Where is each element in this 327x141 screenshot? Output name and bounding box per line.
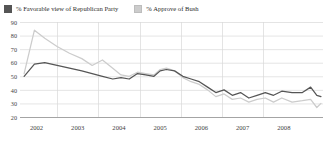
x-tick-label: 2006 — [195, 124, 209, 131]
y-tick-label: 80 — [11, 32, 17, 39]
x-tick-label: 2008 — [277, 124, 291, 131]
chart-figure: % Favorable view of Republican Party % A… — [0, 0, 327, 141]
x-tick-label: 2005 — [154, 124, 168, 131]
x-tick-label: 2004 — [112, 124, 126, 131]
x-tick-label: 2007 — [236, 124, 250, 131]
y-tick-label: 20 — [11, 114, 17, 121]
legend-swatch-republican — [4, 5, 12, 13]
chart-plot-area: 9080706050403020 20022003200420052006200… — [0, 18, 327, 141]
legend-label-republican: % Favorable view of Republican Party — [16, 5, 118, 13]
y-tick-label: 70 — [11, 46, 17, 53]
y-tick-label: 40 — [11, 87, 17, 94]
chart-x-tick-labels: 2002200320042005200620072008 — [30, 124, 291, 131]
chart-y-tick-labels: 9080706050403020 — [11, 19, 17, 121]
x-tick-label: 2002 — [30, 124, 43, 131]
chart-svg: 9080706050403020 20022003200420052006200… — [0, 18, 327, 141]
chart-series-lines — [24, 30, 321, 107]
y-tick-label: 30 — [11, 100, 17, 107]
x-tick-label: 2003 — [71, 124, 85, 131]
legend-swatch-bush — [134, 5, 142, 13]
series-line-republican — [24, 63, 321, 98]
series-line-bush — [24, 30, 321, 107]
legend-item-republican: % Favorable view of Republican Party — [4, 5, 118, 13]
legend-item-bush: % Approve of Bush — [134, 5, 198, 13]
y-tick-label: 60 — [11, 59, 17, 66]
legend-label-bush: % Approve of Bush — [146, 5, 198, 13]
chart-legend: % Favorable view of Republican Party % A… — [0, 0, 327, 18]
y-tick-label: 50 — [11, 73, 17, 80]
y-tick-label: 90 — [11, 19, 17, 26]
